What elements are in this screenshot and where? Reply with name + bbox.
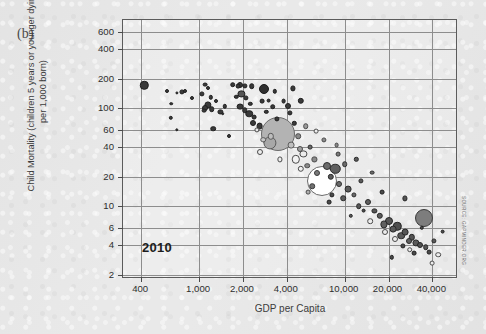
data-bubble [209, 106, 215, 112]
data-bubble [440, 229, 445, 234]
x-tick-label: 40,000 [417, 283, 446, 294]
data-bubble [208, 95, 212, 99]
y-tick-label: 4 [109, 239, 114, 250]
gridline-horizontal [123, 79, 456, 80]
x-tick-mark [389, 277, 390, 282]
data-bubble [206, 86, 210, 90]
data-bubble [351, 192, 356, 197]
data-bubble [349, 213, 353, 217]
data-bubble [400, 244, 405, 249]
data-bubble [298, 97, 304, 103]
data-bubble [415, 209, 433, 227]
data-bubble [436, 252, 442, 258]
y-tick-mark [118, 206, 123, 207]
x-tick-mark [243, 277, 244, 282]
data-bubble [323, 162, 331, 170]
data-bubble [221, 112, 225, 116]
data-bubble [377, 212, 383, 218]
gridline-vertical [243, 20, 244, 277]
y-tick-mark [118, 275, 123, 276]
data-bubble [250, 120, 256, 126]
x-tick-mark [199, 277, 200, 282]
data-bubble [288, 142, 295, 149]
data-bubble [365, 199, 371, 205]
data-bubble [140, 81, 148, 89]
data-bubble [341, 196, 347, 202]
data-bubble [342, 161, 348, 167]
gridline-horizontal [123, 32, 456, 33]
data-bubble [291, 155, 299, 163]
data-bubble [210, 126, 216, 132]
data-bubble [368, 219, 374, 225]
figure-page: (b) Child Mortality (children 5 years or… [0, 0, 486, 334]
x-tick-mark [141, 277, 142, 282]
data-bubble [202, 108, 207, 113]
y-tick-mark [118, 32, 123, 33]
gridline-horizontal [123, 245, 456, 246]
y-tick-label: 60 [103, 124, 114, 135]
data-bubble [248, 101, 252, 105]
y-axis-title: Child Mortality (children 5 years or you… [26, 0, 49, 192]
data-bubble [354, 157, 358, 161]
x-tick-label: 4,000 [274, 283, 298, 294]
data-bubble [321, 137, 326, 142]
data-bubble [290, 86, 295, 91]
y-tick-mark [118, 245, 123, 246]
y-tick-mark [118, 228, 123, 229]
data-bubble [336, 181, 342, 187]
y-tick-mark [118, 108, 123, 109]
data-bubble [242, 83, 247, 88]
data-bubble [243, 95, 248, 100]
data-bubble [304, 163, 310, 169]
data-bubble [214, 99, 218, 103]
data-bubble [242, 107, 248, 113]
data-bubble [169, 102, 173, 106]
data-bubble [312, 157, 317, 162]
data-bubble [252, 114, 257, 119]
data-bubble [392, 236, 398, 242]
x-tick-mark [432, 277, 433, 282]
y-tick-label: 400 [98, 43, 114, 54]
data-bubble [372, 208, 377, 213]
data-bubble [281, 99, 286, 104]
data-bubble [260, 99, 265, 104]
y-tick-mark [118, 79, 123, 80]
gridline-horizontal [123, 177, 456, 178]
y-tick-mark [118, 177, 123, 178]
data-bubble [298, 166, 304, 172]
gridline-vertical [287, 20, 288, 277]
data-bubble [330, 192, 335, 197]
data-bubble [200, 91, 205, 96]
data-bubble [382, 229, 388, 235]
data-bubble [303, 123, 309, 129]
data-bubble [427, 250, 432, 255]
data-bubble [272, 89, 276, 93]
gridline-vertical [345, 20, 346, 277]
data-bubble [266, 98, 271, 103]
data-bubble [370, 170, 375, 175]
data-bubble [278, 157, 283, 162]
x-tick-label: 400 [132, 283, 148, 294]
data-bubble [259, 84, 269, 94]
gridline-vertical [199, 20, 200, 277]
data-bubble [356, 203, 362, 209]
data-bubble [234, 94, 238, 98]
x-tick-label: 2,000 [230, 283, 254, 294]
data-bubble [306, 189, 311, 194]
data-bubble [183, 89, 187, 93]
data-bubble [169, 116, 173, 120]
gridline-horizontal [123, 49, 456, 50]
data-bubble [308, 145, 313, 150]
data-bubble [236, 84, 241, 89]
y-tick-label: 2 [109, 268, 114, 279]
data-bubble [175, 128, 178, 131]
data-bubble [287, 110, 292, 115]
data-bubble [406, 238, 412, 244]
data-bubble [285, 103, 291, 109]
data-bubble [330, 164, 340, 174]
y-tick-mark [118, 130, 123, 131]
data-bubble [336, 152, 341, 157]
data-bubble [403, 196, 408, 201]
gridline-vertical [389, 20, 390, 277]
data-bubble [227, 134, 231, 138]
